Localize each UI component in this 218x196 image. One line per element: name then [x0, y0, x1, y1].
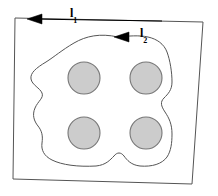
diagram-canvas: [0, 0, 218, 196]
outer-arrowhead-left-icon: [27, 14, 42, 24]
circle-bottom-left: [68, 117, 100, 149]
contour-diagram-figure: l1 l2: [0, 0, 218, 196]
circle-bottom-right: [130, 117, 162, 149]
label-outer-path: l1: [70, 4, 77, 23]
circle-top-right: [130, 62, 162, 94]
circle-top-left: [68, 62, 100, 94]
label-outer-path-subscript: 1: [73, 16, 77, 25]
inner-arrowhead-left-icon: [114, 32, 129, 42]
label-inner-path: l2: [140, 24, 147, 43]
outer-boundary-quadrilateral: [13, 18, 203, 184]
label-inner-path-subscript: 2: [143, 36, 147, 45]
